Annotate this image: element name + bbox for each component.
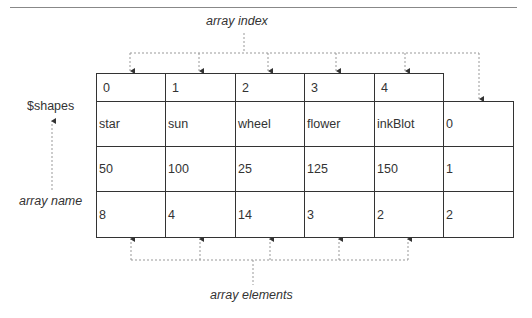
index-cell: 0 (96, 73, 166, 102)
element-cell: flower (304, 101, 375, 147)
array-index-label: array index (206, 14, 268, 28)
array-name-label: array name (19, 194, 82, 208)
index-cell: 2 (235, 73, 305, 102)
element-cell: 25 (235, 146, 305, 192)
element-cell: 50 (96, 146, 166, 192)
element-cell: 8 (96, 191, 166, 238)
element-cell: 100 (165, 146, 236, 192)
index-cell: 3 (304, 73, 375, 102)
row-index-cell: 2 (443, 191, 514, 238)
element-cell: 4 (165, 191, 236, 238)
row-index-cell: 0 (443, 101, 514, 147)
element-cell: inkBlot (374, 101, 444, 147)
index-cell: 1 (165, 73, 236, 102)
array-elements-label: array elements (210, 288, 293, 302)
element-cell: sun (165, 101, 236, 147)
element-cell: 3 (304, 191, 375, 238)
element-cell: star (96, 101, 166, 147)
element-cell: wheel (235, 101, 305, 147)
row-index-cell: 1 (443, 146, 514, 192)
element-cell: 150 (374, 146, 444, 192)
variable-name-label: $shapes (27, 99, 74, 113)
index-cell: 4 (374, 73, 444, 102)
element-cell: 125 (304, 146, 375, 192)
element-cell: 14 (235, 191, 305, 238)
element-cell: 2 (374, 191, 444, 238)
